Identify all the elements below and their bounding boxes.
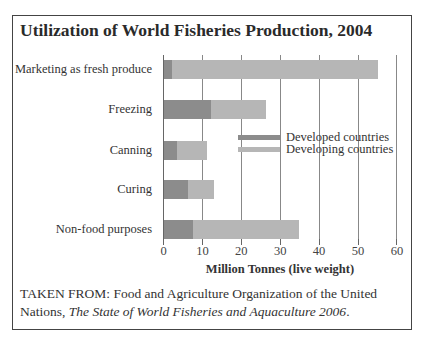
bar-developed <box>163 100 211 119</box>
source-note: TAKEN FROM: Food and Agriculture Organiz… <box>20 285 405 321</box>
source-suffix: . <box>346 304 349 319</box>
legend-item-developing: Developing countries <box>238 143 393 155</box>
gridline <box>396 55 397 245</box>
x-tick-label: 20 <box>235 244 248 259</box>
legend: Developed countries Developing countries <box>238 131 393 155</box>
category-label: Non-food purposes <box>56 222 152 237</box>
category-label: Freezing <box>108 102 152 117</box>
x-axis-title: Million Tonnes (live weight) <box>206 262 354 277</box>
bar-developing <box>211 100 266 119</box>
category-label: Marketing as fresh produce <box>15 62 152 77</box>
x-tick-label: 0 <box>160 244 166 259</box>
y-axis-line <box>163 55 165 245</box>
bar-developed <box>163 60 172 79</box>
legend-swatch-developed <box>238 135 280 140</box>
x-tick-label: 40 <box>313 244 326 259</box>
legend-label-developing: Developing countries <box>286 142 393 157</box>
x-tick-label: 50 <box>352 244 365 259</box>
bar-developing <box>193 220 299 239</box>
source-title: The State of World Fisheries and Aquacul… <box>69 304 346 319</box>
category-label: Curing <box>117 182 152 197</box>
legend-swatch-developing <box>238 147 280 152</box>
bar-developing <box>177 141 207 160</box>
bar-developing <box>172 60 379 79</box>
bar-developing <box>188 180 214 199</box>
x-tick-label: 30 <box>274 244 287 259</box>
category-label: Canning <box>110 143 152 158</box>
bar-developed <box>163 180 188 199</box>
x-tick-label: 10 <box>196 244 209 259</box>
x-tick-label: 60 <box>391 244 404 259</box>
bar-developed <box>163 220 193 239</box>
bar-developed <box>163 141 177 160</box>
